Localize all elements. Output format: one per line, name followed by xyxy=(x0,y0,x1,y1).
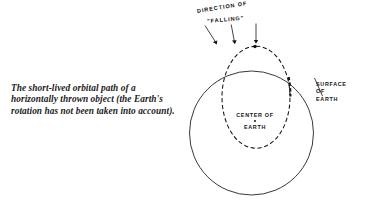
label-direction-line-1: DIRECTION OF xyxy=(197,0,248,14)
label-direction-of-falling: DIRECTION OF "FALLING" xyxy=(194,2,290,24)
label-surface-line-1: SURFACE xyxy=(316,81,347,88)
falling-direction-arrows xyxy=(205,24,258,45)
label-center-line-1: CENTER OF xyxy=(236,112,273,118)
label-surface-of-earth: SURFACE OF EARTH xyxy=(316,81,347,103)
earth-center-point-icon xyxy=(254,120,256,122)
orbit-apex-marker xyxy=(253,45,256,48)
figure-page: The short-lived orbital path of a horizo… xyxy=(0,0,365,203)
label-surface-line-3: EARTH xyxy=(316,96,347,103)
label-center-of-earth: CENTER OF EARTH xyxy=(229,112,281,131)
orbital-path-diagram xyxy=(0,0,365,203)
label-center-line-2: EARTH xyxy=(244,124,266,130)
earth-circle xyxy=(190,71,314,195)
label-direction-line-2: "FALLING" xyxy=(207,15,245,24)
falling-arrow-left xyxy=(205,26,217,45)
orbital-path-ellipse xyxy=(222,46,290,148)
label-surface-line-2: OF xyxy=(316,88,347,95)
falling-arrow-right xyxy=(254,24,258,44)
falling-arrow-middle xyxy=(231,25,236,45)
